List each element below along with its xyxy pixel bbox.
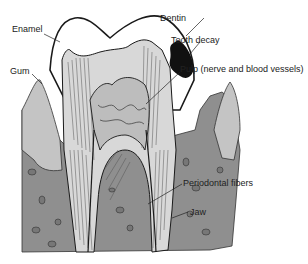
label-gum: Gum bbox=[10, 66, 30, 76]
label-pulp: Pulp (nerve and blood vessels) bbox=[180, 64, 304, 74]
label-jaw: Jaw bbox=[190, 207, 206, 217]
label-tooth-decay: Tooth decay bbox=[171, 35, 220, 45]
label-enamel: Enamel bbox=[12, 24, 43, 34]
label-periodontal-fibers: Periodontal fibers bbox=[183, 178, 253, 188]
tooth-diagram bbox=[0, 0, 308, 264]
label-dentin: Dentin bbox=[160, 13, 186, 23]
